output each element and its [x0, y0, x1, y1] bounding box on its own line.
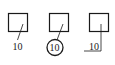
label-plain: 10: [13, 41, 23, 52]
annotation-plain: 10: [9, 14, 28, 53]
annotation-diagram: 10 10 10: [0, 0, 115, 65]
annotation-underlined: 10: [84, 14, 109, 52]
part-box-1: [9, 14, 28, 32]
label-circled: 10: [50, 42, 60, 53]
annotation-circled: 10: [47, 14, 69, 56]
part-box-3: [90, 14, 109, 32]
part-box-2: [50, 14, 69, 32]
label-underlined: 10: [89, 41, 99, 52]
